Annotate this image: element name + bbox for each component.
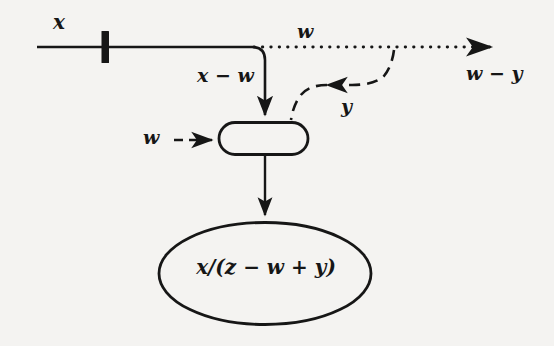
tap-bar — [102, 31, 110, 63]
label-x-minus-w: x − w — [197, 66, 254, 85]
diagram-vector-layer — [0, 0, 554, 346]
diagram-canvas: x x − w w w y w − y x/(z − w + y) — [0, 0, 554, 346]
label-result-expression: x/(z − w + y) — [174, 257, 358, 277]
label-input-x: x — [53, 12, 65, 32]
label-feedback-y: y — [341, 97, 352, 116]
label-w-minus-y: w − y — [466, 64, 523, 83]
label-left-w: w — [143, 128, 159, 147]
label-top-w: w — [297, 22, 313, 41]
process-box[interactable] — [219, 123, 308, 155]
y-feedback-upper — [327, 50, 394, 85]
y-feedback-lower — [291, 85, 327, 120]
